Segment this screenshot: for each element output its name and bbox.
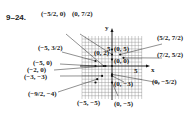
point-label: (0, −5/2) [152,78,177,86]
point-label: (0, −3) [114,80,134,88]
x-tick-label: 5 [134,67,138,75]
x-axis-label: x [151,66,155,74]
point-label: (7/2, 5/2) [157,51,184,59]
point-label: (5/2, 7/2) [157,34,184,42]
leader-lines [54,34,162,96]
point-label: (0, 5) [114,45,130,53]
y-axis-arrow-icon [111,28,114,32]
point-label: (−3, −3) [24,73,48,81]
point-label: (0, 7/2) [72,10,93,18]
point-label: (−9/2, −4) [28,90,57,98]
point-label: (−5, −5) [77,99,101,107]
point-label: (−5/2, 0) [41,10,66,18]
point-label: (−5, 3/2) [38,44,63,52]
x-axis-arrow-icon [146,65,150,68]
point-label: (0, 2) [94,49,110,57]
point-label: (0, −5) [114,100,134,108]
point-label: (0, 0) [114,57,130,65]
coordinate-grid-diagram: y x 5 5 (0, 5) (0, 2) (0, 0) (−5/2, 0) (… [0,0,188,124]
y-axis-label: y [105,24,109,32]
